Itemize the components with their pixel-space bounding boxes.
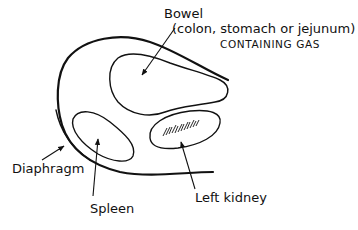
bowel-outline — [110, 54, 228, 115]
bowel-note-label: CONTAINING GAS — [220, 38, 320, 50]
left-kidney-outline — [150, 111, 220, 149]
diaphragm-arrow — [42, 146, 64, 160]
bowel-label: Bowel — [164, 6, 203, 21]
diaphragm-label: Diaphragm — [12, 161, 84, 176]
gas-hatching — [163, 120, 199, 136]
anatomy-diagram: Bowel (colon, stomach or jejunum) CONTAI… — [0, 0, 358, 230]
diaphragm-outline — [58, 37, 228, 174]
bowel-detail-label: (colon, stomach or jejunum) — [172, 21, 355, 36]
left-kidney-label: Left kidney — [195, 190, 267, 205]
kidney-arrow — [181, 142, 195, 189]
spleen-label: Spleen — [90, 201, 134, 216]
spleen-arrow — [93, 139, 98, 196]
